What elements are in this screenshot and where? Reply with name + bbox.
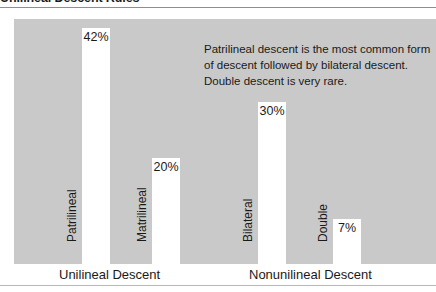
bar-value-matrilineal: 20% <box>152 161 180 175</box>
bar-label-matrilineal: Matrilineal <box>136 187 148 242</box>
plot-area: 42% Patrilineal 20% Matrilineal 30% Bila… <box>14 19 436 264</box>
bar-value-bilateral: 30% <box>258 105 286 119</box>
bar-double: 7% <box>333 219 361 264</box>
page-title: Unilineal Descent Rules <box>0 0 139 5</box>
bar-label-patrilineal: Patrilineal <box>66 189 78 242</box>
header-divider <box>0 7 436 8</box>
group-label-nonunilineal: Nonunilineal Descent <box>249 268 372 281</box>
bar-label-double: Double <box>317 204 329 242</box>
annotation-text: Patrilineal descent is the most common f… <box>204 42 436 90</box>
figure-container: Unilineal Descent Rules 42% Patrilineal … <box>0 0 436 292</box>
group-label-unilineal: Unilineal Descent <box>59 268 160 281</box>
bar-bilateral: 30% <box>258 102 286 264</box>
footer-divider <box>0 285 436 286</box>
bar-matrilineal: 20% <box>152 158 180 264</box>
chart-panel: 42% Patrilineal 20% Matrilineal 30% Bila… <box>14 19 436 264</box>
bar-value-double: 7% <box>333 222 361 236</box>
bar-patrilineal: 42% <box>82 28 110 264</box>
bar-label-bilateral: Bilateral <box>242 199 254 242</box>
bar-value-patrilineal: 42% <box>82 31 110 45</box>
